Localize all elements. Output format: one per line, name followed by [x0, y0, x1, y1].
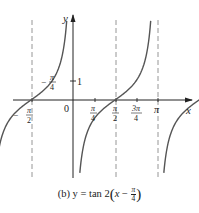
svg-text:−: −	[13, 110, 18, 120]
tangent-branch-3	[164, 21, 199, 173]
tangent-branches	[0, 21, 199, 173]
caption-prefix: (b) y = tan 2	[58, 188, 110, 199]
tangent-branch-2	[80, 21, 151, 173]
caption-minus: −	[119, 188, 130, 199]
chart-caption: (b) y = tan 2(x − π4)	[0, 186, 199, 203]
svg-text:2: 2	[113, 114, 117, 123]
x-tick-label-neg-pi-over-2: − π 2	[13, 106, 33, 125]
svg-text:π: π	[27, 106, 32, 115]
svg-text:π: π	[113, 104, 118, 113]
svg-text:4: 4	[50, 83, 54, 92]
x-axis-label: x	[185, 104, 191, 116]
x-tick-label-neg-pi-over-4: − π 4	[41, 73, 56, 92]
y-axis-label: y	[62, 12, 68, 24]
svg-text:π: π	[91, 104, 96, 113]
tangent-branch-1	[0, 21, 67, 173]
svg-text:3π: 3π	[131, 104, 141, 113]
x-tick-label-pi-over-4: π 4	[90, 104, 97, 123]
origin-label: 0	[64, 103, 69, 114]
svg-text:4: 4	[91, 114, 95, 123]
y-tick-label-1: 1	[77, 76, 82, 87]
caption-paren-close: )	[136, 186, 141, 202]
graph-canvas: y x 0 1 − π 4 − π 2 π 4 π 2 3π 4 π	[0, 0, 199, 213]
svg-text:−: −	[41, 77, 46, 87]
x-tick-label-pi-over-2: π 2	[112, 104, 119, 123]
x-tick-label-3pi-over-4: 3π 4	[131, 104, 142, 123]
x-tick-label-pi: π	[154, 104, 160, 115]
svg-text:4: 4	[134, 114, 138, 123]
svg-text:2: 2	[27, 116, 31, 125]
